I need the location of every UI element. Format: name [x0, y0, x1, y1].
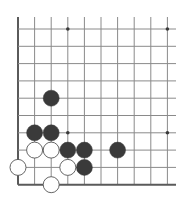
white-stone: [43, 177, 59, 193]
white-stone: [43, 142, 59, 158]
black-stone: [43, 90, 59, 106]
grid-lines: [18, 17, 176, 185]
white-stone: [10, 159, 26, 175]
black-stone: [27, 125, 43, 141]
black-stone: [60, 142, 76, 158]
black-stone: [110, 142, 126, 158]
white-stone: [27, 142, 43, 158]
black-stone: [43, 125, 59, 141]
go-board: [0, 0, 191, 197]
black-stone: [76, 142, 92, 158]
star-point-icon: [66, 27, 70, 31]
black-stone: [76, 159, 92, 175]
white-stone: [60, 159, 76, 175]
star-point-icon: [166, 131, 170, 135]
star-point-icon: [166, 27, 170, 31]
star-point-icon: [66, 131, 70, 135]
